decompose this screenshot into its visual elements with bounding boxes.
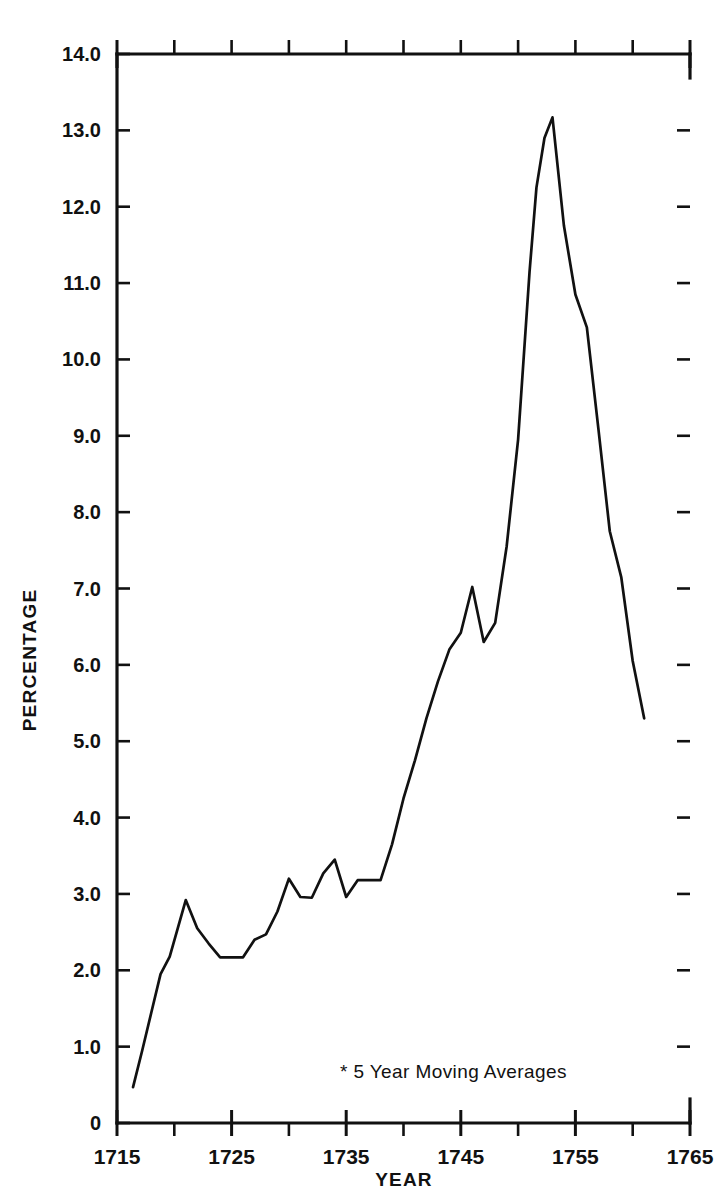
y-tick-label: 1.0 bbox=[73, 1036, 101, 1058]
y-tick-label: 14.0 bbox=[62, 43, 101, 65]
y-tick-label: 8.0 bbox=[73, 501, 101, 523]
y-tick-label: 12.0 bbox=[62, 196, 101, 218]
x-tick-label: 1735 bbox=[323, 1145, 370, 1168]
chart-annotation-note: * 5 Year Moving Averages bbox=[340, 1061, 567, 1082]
chart-axes bbox=[117, 54, 690, 1123]
y-tick-label: 9.0 bbox=[73, 425, 101, 447]
y-tick-label-group: 01.02.03.04.05.06.07.08.09.010.011.012.0… bbox=[62, 43, 101, 1134]
x-tick-label: 1745 bbox=[437, 1145, 484, 1168]
y-tick-label: 11.0 bbox=[63, 272, 101, 294]
chart-figure: 01.02.03.04.05.06.07.08.09.010.011.012.0… bbox=[0, 0, 727, 1193]
x-tick-label-group: 171517251735174517551765 bbox=[94, 1145, 714, 1168]
x-tick-label: 1715 bbox=[94, 1145, 141, 1168]
x-tick-label: 1755 bbox=[552, 1145, 599, 1168]
x-axis-title: YEAR bbox=[375, 1169, 433, 1190]
y-axis-title: PERCENTAGE bbox=[19, 589, 40, 732]
y-tick-group bbox=[117, 54, 130, 1123]
y-tick-label: 3.0 bbox=[73, 883, 101, 905]
x-tick-label: 1725 bbox=[208, 1145, 255, 1168]
y-tick-label: 6.0 bbox=[73, 654, 101, 676]
y-tick-label: 4.0 bbox=[73, 807, 101, 829]
y-tick-label: 5.0 bbox=[73, 730, 101, 752]
y-tick-label: 7.0 bbox=[73, 578, 101, 600]
y-tick-label: 2.0 bbox=[73, 959, 101, 981]
data-series-line bbox=[133, 117, 644, 1087]
y-tick-label: 0 bbox=[90, 1112, 101, 1134]
x-tick-label: 1765 bbox=[667, 1145, 714, 1168]
y-right-tick-group bbox=[677, 130, 690, 1046]
y-tick-label: 13.0 bbox=[62, 119, 101, 141]
y-tick-label: 10.0 bbox=[62, 348, 101, 370]
line-chart-canvas: 01.02.03.04.05.06.07.08.09.010.011.012.0… bbox=[0, 0, 727, 1193]
